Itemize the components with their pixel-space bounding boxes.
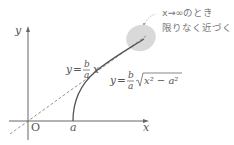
annotation-line1: x→∞のとき — [162, 7, 214, 18]
svg-text:=: = — [117, 74, 126, 86]
y-axis-label: y — [14, 24, 22, 37]
svg-text:x² − a²: x² − a² — [144, 75, 178, 86]
annotation-line2: 限りなく近づく — [162, 22, 232, 33]
hyperbola-curve — [73, 39, 144, 121]
svg-text:y: y — [109, 74, 117, 86]
y-axis-arrow-icon — [26, 26, 30, 32]
convergence-highlight — [122, 21, 159, 56]
hyperbola-diagram: y x O a y = b a x y = b a x² − a² x→∞のとき… — [0, 0, 234, 145]
annotation-dot — [143, 23, 145, 25]
svg-text:y: y — [65, 63, 73, 75]
svg-text:x: x — [93, 63, 99, 75]
curve-equation: y = b a x² − a² — [109, 70, 182, 91]
x-axis-label: x — [143, 121, 150, 134]
origin-label: O — [31, 121, 40, 134]
asymptote-equation: y = b a x — [65, 59, 99, 80]
a-label: a — [70, 121, 77, 134]
svg-text:b: b — [84, 59, 90, 69]
svg-text:b: b — [128, 70, 134, 80]
svg-text:=: = — [73, 63, 82, 75]
svg-text:a: a — [84, 70, 89, 80]
annotation-leader — [145, 14, 156, 24]
svg-text:a: a — [128, 81, 133, 91]
